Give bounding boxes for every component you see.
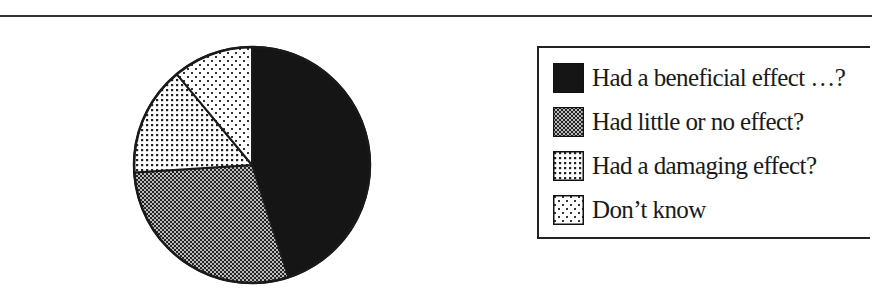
legend-item-damaging: Had a damaging effect?	[553, 150, 816, 181]
legend-item-beneficial: Had a beneficial effect …?	[553, 62, 845, 93]
legend-item-little-or-no-effect: Had little or no effect?	[553, 106, 803, 137]
legend-swatch-sparse-dots	[553, 195, 584, 225]
legend-swatch-dense-checker	[553, 107, 584, 137]
chart-legend: Had a beneficial effect …? Had little or…	[537, 46, 870, 239]
legend-label: Don’t know	[592, 195, 706, 225]
legend-label: Had a beneficial effect …?	[592, 63, 845, 93]
legend-label: Had little or no effect?	[592, 107, 803, 137]
legend-swatch-medium-dots	[553, 151, 584, 181]
legend-item-dont-know: Don’t know	[553, 194, 706, 225]
legend-label: Had a damaging effect?	[592, 151, 816, 181]
pie-chart	[130, 43, 374, 287]
pie-chart-svg	[130, 43, 374, 287]
top-horizontal-rule	[0, 15, 872, 17]
legend-swatch-solid-black	[553, 63, 584, 93]
